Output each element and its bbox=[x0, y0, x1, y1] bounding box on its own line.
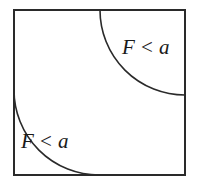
bottom-left-region-label: F<a bbox=[20, 129, 69, 153]
top-right-label-variable: F bbox=[121, 35, 135, 59]
top-right-label-bound: a bbox=[159, 35, 170, 59]
bottom-left-label-operator: < bbox=[40, 129, 52, 153]
bottom-left-label-variable: F bbox=[20, 129, 34, 153]
top-right-region-label: F<a bbox=[121, 35, 170, 59]
bottom-left-label-bound: a bbox=[58, 129, 69, 153]
geometric-diagram: F<a F<a bbox=[0, 0, 198, 183]
figure-container: F<a F<a bbox=[0, 0, 198, 183]
top-right-label-operator: < bbox=[141, 35, 153, 59]
